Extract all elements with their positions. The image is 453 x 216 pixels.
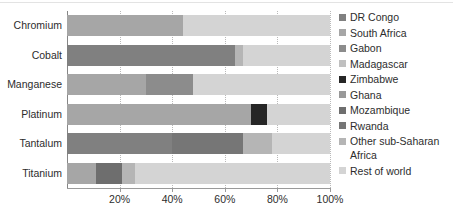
legend-label: South Africa [350,26,407,40]
category-label: Titanium [0,167,62,179]
legend-label: Ghana [350,88,382,102]
bar-row [67,74,330,95]
x-tick [330,188,331,192]
bar-row [67,15,330,36]
category-label: Tantalum [0,137,62,149]
bar-segment [243,133,272,154]
x-tick [120,188,121,192]
legend-item[interactable]: Rwanda [339,119,453,133]
bar-segment [96,163,122,184]
bar-row [67,163,330,184]
category-label: Manganese [0,78,62,90]
legend-label: Rwanda [350,119,389,133]
x-tick-label: 100% [317,193,344,205]
x-tick-label: 40% [162,193,183,205]
legend-label: DR Congo [350,10,399,24]
legend-item[interactable]: Gabon [339,41,453,55]
bar-segment [272,133,330,154]
bar-segment [67,74,146,95]
bar-segment [122,163,135,184]
legend-item[interactable]: Mozambique [339,103,453,117]
legend-swatch-icon [339,167,346,174]
stacked-bar-chart: ChromiumCobaltManganesePlatinumTantalumT… [0,0,453,216]
category-label: Platinum [0,108,62,120]
legend-swatch-icon [339,138,346,145]
legend-label: Gabon [350,41,382,55]
plot-area [67,11,330,188]
bar-segment [146,74,193,95]
legend-item[interactable]: DR Congo [339,10,453,24]
category-label: Cobalt [0,49,62,61]
bar-row [67,104,330,125]
legend-item[interactable]: Other sub-SaharanAfrica [339,134,453,162]
bar-segment [67,133,172,154]
legend-label-line2: Africa [350,148,439,162]
legend-item[interactable]: Zimbabwe [339,72,453,86]
bar-segment [183,15,330,36]
x-tick-label: 20% [109,193,130,205]
legend-swatch-icon [339,29,346,36]
bar-segment [193,74,330,95]
bar-segment [67,104,251,125]
legend-label: Madagascar [350,57,408,71]
x-tick [172,188,173,192]
legend-swatch-icon [339,107,346,114]
legend-label: Zimbabwe [350,72,398,86]
legend-swatch-icon [339,45,346,52]
legend-swatch-icon [339,60,346,67]
legend-label: Other sub-SaharanAfrica [350,134,439,162]
bar-segment [135,163,330,184]
legend-swatch-icon [339,122,346,129]
legend-item[interactable]: Ghana [339,88,453,102]
x-axis-line [67,188,331,189]
legend-swatch-icon [339,91,346,98]
legend-item[interactable]: South Africa [339,26,453,40]
bar-row [67,133,330,154]
legend-label: Mozambique [350,103,410,117]
bar-segment [267,104,330,125]
x-tick-label: 60% [214,193,235,205]
bar-segment [235,45,243,66]
bar-segment [67,45,235,66]
legend-item[interactable]: Rest of world [339,164,453,178]
x-tick [277,188,278,192]
legend-label: Rest of world [350,164,411,178]
category-label: Chromium [0,19,62,31]
x-tick [225,188,226,192]
bar-segment [251,104,267,125]
legend-item[interactable]: Madagascar [339,57,453,71]
bar-segment [67,15,183,36]
legend-swatch-icon [339,14,346,21]
x-tick-label: 80% [267,193,288,205]
top-divider [0,2,453,3]
legend-swatch-icon [339,76,346,83]
bar-segment [67,163,96,184]
bar-segment [243,45,330,66]
bar-row [67,45,330,66]
gridline [330,11,331,188]
bar-segment [172,133,243,154]
chart-legend: DR CongoSouth AfricaGabonMadagascarZimba… [339,10,453,179]
